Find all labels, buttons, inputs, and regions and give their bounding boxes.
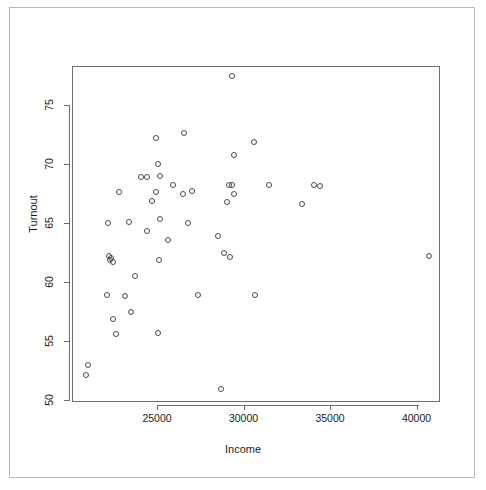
y-tick-label: 75 [43,92,55,118]
data-point [189,188,195,194]
data-point [195,292,201,298]
y-tick-label: 60 [43,269,55,295]
plot-area: 505560657075 25000300003500040000 Turnou… [0,0,486,490]
data-point [165,237,171,243]
y-tick-mark [64,223,69,224]
data-point [144,174,150,180]
y-tick-label: 70 [43,151,55,177]
data-point [105,220,111,226]
y-tick-label: 55 [43,328,55,354]
data-point [128,309,134,315]
x-axis-label: Income [0,443,486,455]
data-point [85,362,91,368]
x-tick-mark [157,405,158,410]
x-tick-mark [417,405,418,410]
data-point [104,292,110,298]
data-point [231,152,237,158]
y-tick-label: 65 [43,210,55,236]
data-point [170,182,176,188]
data-point [155,330,161,336]
data-point [252,292,258,298]
y-axis-line [69,105,70,401]
data-point [226,182,232,188]
data-point [224,199,230,205]
data-point [180,191,186,197]
y-tick-mark [64,341,69,342]
y-tick-mark [64,164,69,165]
y-tick-mark [64,400,69,401]
data-point [149,198,155,204]
x-tick-label: 35000 [300,412,360,424]
data-point [251,139,257,145]
x-tick-label: 30000 [214,412,274,424]
scatter-plot-screenshot: 505560657075 25000300003500040000 Turnou… [0,0,486,490]
data-point [157,173,163,179]
x-tick-mark [244,405,245,410]
x-tick-mark [330,405,331,410]
data-point [215,233,221,239]
x-tick-label: 25000 [127,412,187,424]
data-point [227,254,233,260]
x-tick-label: 40000 [387,412,447,424]
y-tick-label: 50 [43,387,55,413]
data-point [144,228,150,234]
y-axis-label: Turnout [27,195,39,233]
y-tick-mark [64,105,69,106]
plot-box-frame [72,66,440,402]
data-point [229,73,235,79]
x-axis-line [157,405,419,406]
y-tick-mark [64,282,69,283]
data-point [155,161,161,167]
data-point [156,257,162,263]
data-point [231,191,237,197]
data-point [110,316,116,322]
